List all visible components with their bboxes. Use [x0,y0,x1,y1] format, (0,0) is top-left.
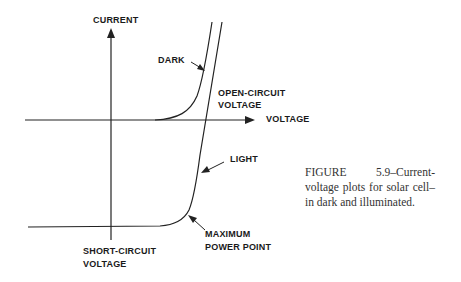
voltage-axis-arrow-icon [245,116,255,124]
max-power-label-line2: POWER POINT [205,241,271,254]
short-circuit-label-line2: VOLTAGE [83,258,127,271]
dark-label: DARK [158,54,185,67]
current-axis-label: CURRENT [93,14,138,27]
light-pointer-arrow-icon [201,166,210,173]
figure-caption: FIGURE 5.9–Current-voltage plots for sol… [305,165,435,210]
current-axis-arrow-icon [107,28,115,38]
voltage-axis-label: VOLTAGE [266,113,310,126]
short-circuit-label-line1: SHORT-CIRCUIT [83,245,156,258]
light-curve [28,22,222,227]
max-power-pointer [194,220,205,230]
light-label: LIGHT [230,153,258,166]
open-circuit-label-line2: VOLTAGE [218,99,262,112]
dark-curve [155,22,212,120]
light-pointer [208,162,224,170]
max-power-label-line1: MAXIMUM [205,228,250,241]
